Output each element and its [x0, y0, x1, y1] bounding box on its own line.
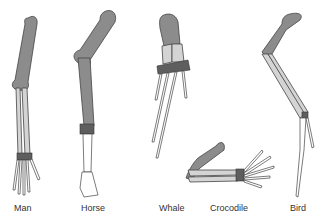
crocodile-limb: [186, 143, 274, 188]
man-limb: [12, 16, 40, 195]
whale-phalanges: [152, 71, 187, 158]
crocodile-ulna: [188, 176, 238, 182]
horse-hoof: [80, 172, 98, 197]
man-carpals: [17, 153, 32, 160]
whale-humerus: [160, 14, 180, 46]
crocodile-carpals: [236, 169, 244, 181]
horse-cannon: [83, 134, 92, 172]
horse-radius-ulna: [78, 58, 94, 126]
man-ulna: [22, 88, 30, 155]
label-crocodile: Crocodile: [210, 203, 248, 213]
crocodile-phalanges: [244, 150, 274, 188]
whale-ulna: [172, 44, 184, 62]
whale-radius: [162, 44, 172, 64]
man-phalanges: [13, 159, 40, 195]
bird-ulna: [268, 54, 308, 116]
bird-phalanges: [296, 118, 314, 197]
horse-limb: [74, 10, 116, 197]
label-man: Man: [14, 203, 32, 213]
whale-limb: [152, 14, 190, 158]
label-whale: Whale: [159, 203, 185, 213]
man-humerus: [12, 16, 37, 90]
bird-radius: [262, 54, 306, 118]
label-horse: Horse: [81, 203, 105, 213]
label-bird: Bird: [290, 203, 306, 213]
bird-humerus: [262, 13, 301, 56]
crocodile-radius: [188, 170, 238, 176]
homologous-limbs-diagram: [0, 0, 323, 217]
man-radius: [16, 88, 22, 155]
horse-carpals: [80, 124, 94, 134]
